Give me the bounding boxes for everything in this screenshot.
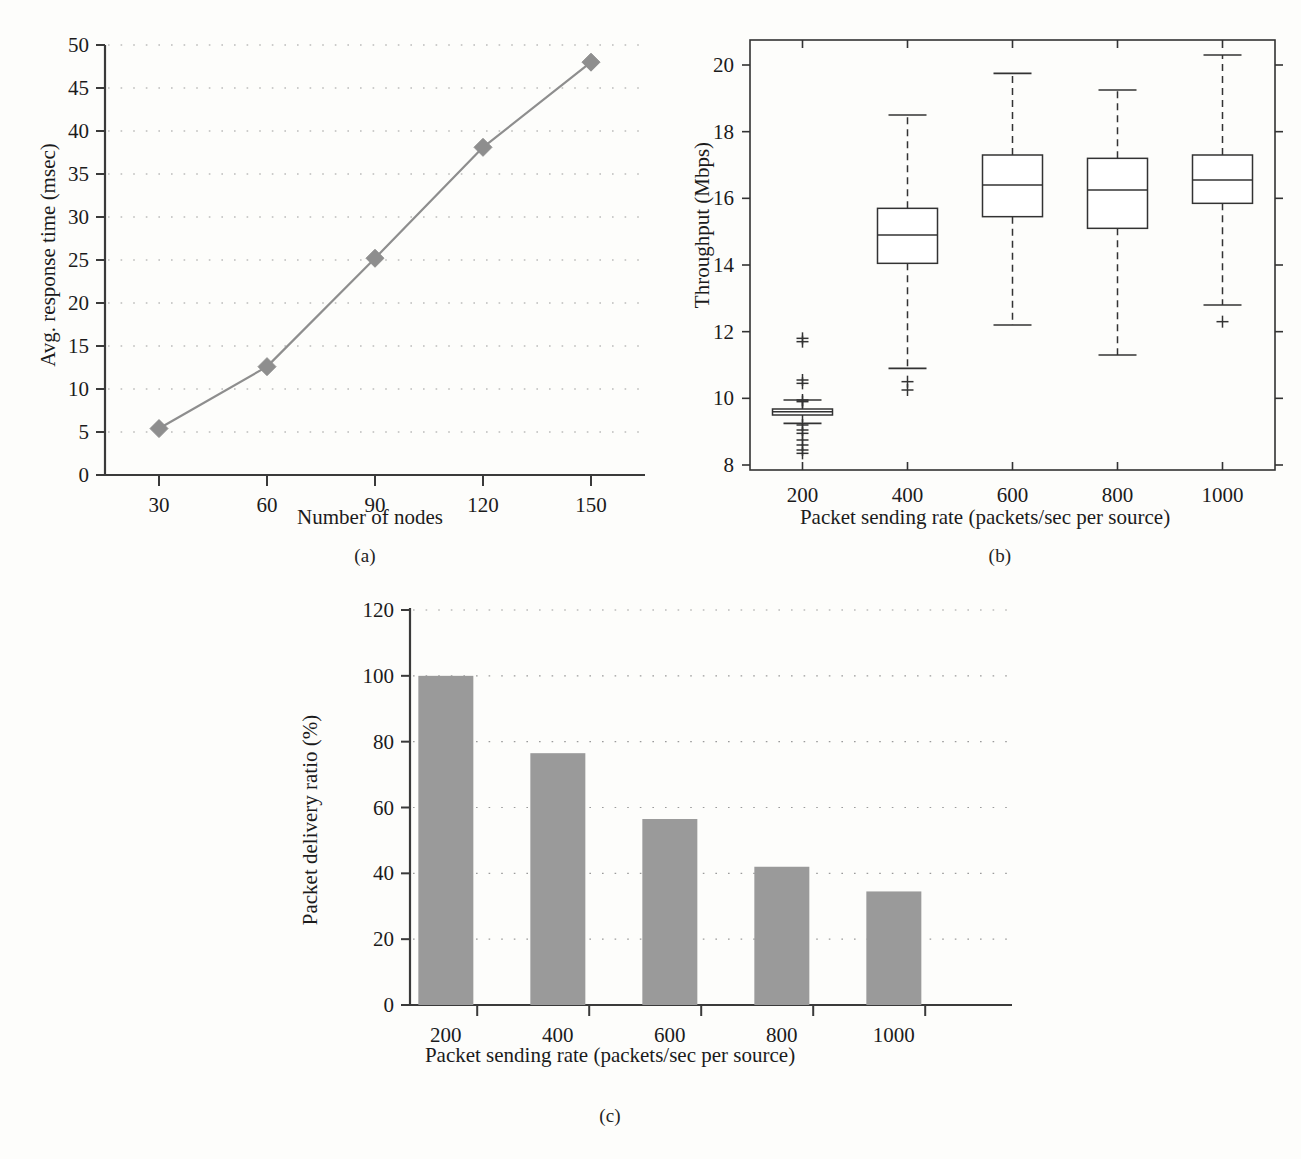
y-tick-label-120: 120	[363, 598, 395, 622]
bar-400	[530, 753, 585, 1005]
panel-b-y-axis-label: Throughput (Mbps)	[690, 50, 715, 400]
y-tick-label-30: 30	[68, 205, 89, 229]
y-tick-label-60: 60	[373, 796, 394, 820]
panel-b-x-axis-label: Packet sending rate (packets/sec per sou…	[705, 505, 1265, 530]
y-tick-label-45: 45	[68, 76, 89, 100]
y-tick-label-35: 35	[68, 162, 89, 186]
y-tick-label-0: 0	[384, 993, 395, 1017]
panel-b-caption: (b)	[940, 545, 1060, 567]
y-tick-label-12: 12	[713, 320, 734, 344]
data-point-marker-30	[150, 420, 168, 438]
y-tick-label-10: 10	[68, 377, 89, 401]
y-tick-label-80: 80	[373, 730, 394, 754]
y-tick-label-20: 20	[68, 291, 89, 315]
x-tick-label-600: 600	[997, 483, 1029, 507]
panel-a-caption: (a)	[305, 545, 425, 567]
y-tick-label-50: 50	[68, 33, 89, 57]
x-tick-label-1000: 1000	[1202, 483, 1244, 507]
panel-a-x-axis-label: Number of nodes	[120, 505, 620, 530]
y-tick-label-0: 0	[79, 463, 90, 487]
y-tick-label-18: 18	[713, 120, 734, 144]
bar-800	[754, 867, 809, 1005]
box-group-200	[773, 332, 833, 459]
box-group-400	[878, 115, 938, 396]
box-iqr-600	[983, 155, 1043, 217]
bar-1000	[866, 891, 921, 1005]
panel-c-x-axis-label: Packet sending rate (packets/sec per sou…	[290, 1043, 930, 1068]
panel-c-bar-chart: 0204060801001202004006008001000 Packet d…	[170, 580, 1020, 1159]
y-tick-label-20: 20	[373, 927, 394, 951]
y-tick-label-10: 10	[713, 386, 734, 410]
figure-root: 05101520253035404550306090120150 Avg. re…	[0, 0, 1301, 1159]
panel-a-plot: 05101520253035404550306090120150	[0, 0, 660, 580]
panel-c-caption: (c)	[550, 1105, 670, 1127]
box-iqr-400	[878, 208, 938, 263]
bar-600	[642, 819, 697, 1005]
y-tick-label-20: 20	[713, 53, 734, 77]
y-tick-label-5: 5	[79, 420, 90, 444]
x-tick-label-200: 200	[787, 483, 819, 507]
panel-b-plot: 81012141618202004006008001000	[660, 0, 1301, 580]
y-tick-label-8: 8	[724, 453, 735, 477]
bar-200	[418, 676, 473, 1005]
box-group-600	[983, 73, 1043, 325]
box-group-1000	[1193, 55, 1253, 328]
y-tick-label-16: 16	[713, 186, 734, 210]
box-group-800	[1088, 90, 1148, 355]
y-tick-label-15: 15	[68, 334, 89, 358]
y-tick-label-40: 40	[68, 119, 89, 143]
x-tick-label-800: 800	[1102, 483, 1134, 507]
data-series-line	[159, 62, 591, 428]
panel-c-y-axis-label: Packet delivery ratio (%)	[298, 620, 323, 1020]
y-tick-label-14: 14	[713, 253, 735, 277]
panel-a-y-axis-label: Avg. response time (msec)	[36, 40, 61, 470]
box-iqr-800	[1088, 158, 1148, 228]
y-tick-label-40: 40	[373, 861, 394, 885]
y-tick-label-25: 25	[68, 248, 89, 272]
y-tick-label-100: 100	[363, 664, 395, 688]
x-tick-label-400: 400	[892, 483, 924, 507]
panel-a-line-chart: 05101520253035404550306090120150 Avg. re…	[0, 0, 660, 580]
panel-b-box-plot: 81012141618202004006008001000 Throughput…	[660, 0, 1301, 580]
box-iqr-1000	[1193, 155, 1253, 203]
